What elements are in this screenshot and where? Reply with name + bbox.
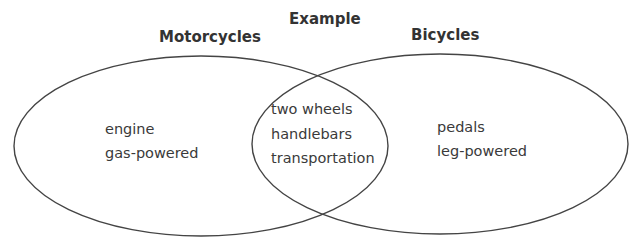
bicycles-item: leg-powered (437, 144, 527, 159)
intersection-item: two wheels (271, 102, 375, 117)
intersection-item: handlebars (271, 127, 375, 142)
bicycles-item: pedals (437, 120, 527, 135)
intersection-item: transportation (271, 151, 375, 166)
set-title-bicycles: Bicycles (411, 28, 479, 43)
motorcycles-items: engine gas-powered (105, 122, 199, 160)
intersection-items: two wheels handlebars transportation (271, 102, 375, 166)
set-title-motorcycles: Motorcycles (159, 30, 261, 45)
motorcycles-item: gas-powered (105, 146, 199, 161)
bicycles-items: pedals leg-powered (437, 120, 527, 158)
motorcycles-item: engine (105, 122, 199, 137)
diagram-title: Example (289, 12, 361, 27)
